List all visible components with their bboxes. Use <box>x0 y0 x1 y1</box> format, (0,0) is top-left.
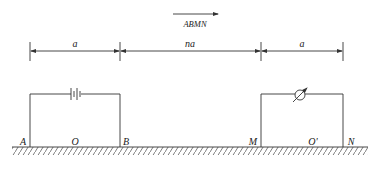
meter-icon <box>293 88 307 102</box>
dimension-lines: a na a <box>30 38 343 61</box>
label-B: B <box>123 136 129 147</box>
label-N: N <box>347 136 356 147</box>
wire-B <box>81 94 120 147</box>
label-O: O <box>71 136 78 147</box>
wire-M <box>261 94 295 147</box>
ground <box>12 147 368 155</box>
potential-circuit <box>261 88 343 147</box>
direction-label: ABMN <box>182 19 207 29</box>
electrode-labels: A O B M O' N <box>19 136 356 147</box>
dimension-label-AB: a <box>73 38 78 49</box>
label-A: A <box>19 136 27 147</box>
wire-A <box>30 94 71 147</box>
electrode-array-diagram: ABMN a na a <box>0 0 378 171</box>
dimension-label-MN: a <box>300 38 305 49</box>
direction-indicator: ABMN <box>173 14 218 29</box>
ground-hatching <box>12 147 368 155</box>
battery-icon <box>71 88 80 100</box>
label-M: M <box>248 136 258 147</box>
dimension-label-BM: na <box>185 38 195 49</box>
label-O-prime: O' <box>308 136 318 147</box>
